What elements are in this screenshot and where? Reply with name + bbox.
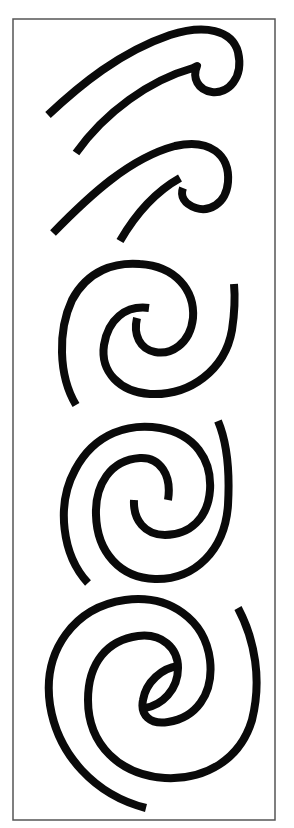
spiral-1-arm-a — [62, 264, 193, 405]
hook-2-outer-stroke — [53, 144, 228, 233]
hook-2-inner-stroke — [120, 178, 180, 241]
motif-canvas — [0, 0, 294, 828]
motif-figure: Koru motif progression — [0, 0, 294, 828]
motif-hook-1 — [48, 30, 239, 153]
motif-hook-2 — [53, 144, 228, 241]
spiral-1-arm-b — [103, 284, 234, 394]
spiral-2-arm-a — [64, 427, 210, 583]
motif-spiral-1 — [62, 264, 235, 405]
motif-spiral-2 — [64, 421, 229, 583]
hook-1-outer-stroke — [48, 30, 239, 153]
motif-spiral-3 — [49, 599, 257, 808]
spiral-3-arm-b — [88, 608, 257, 778]
